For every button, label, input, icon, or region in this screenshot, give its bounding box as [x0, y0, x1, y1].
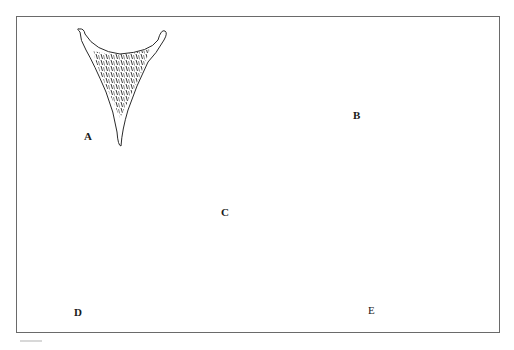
- panel-label-d: D: [74, 307, 82, 318]
- panel-label-b: B: [353, 110, 360, 121]
- figure-drawings: [0, 0, 514, 350]
- panel-label-a: A: [84, 131, 92, 142]
- panel-label-c: C: [221, 207, 229, 218]
- caption-fragment: [20, 340, 42, 342]
- panel-a-drawing: [78, 29, 167, 146]
- panel-label-e: E: [368, 305, 375, 316]
